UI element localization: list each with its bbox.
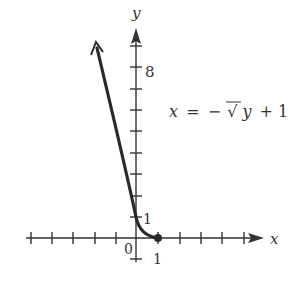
x-tick-label-1: 1	[153, 251, 162, 267]
x-axis-label: x	[270, 230, 279, 248]
y-axis-label: y	[131, 4, 141, 22]
y-tick-label-1: 1	[143, 211, 152, 227]
equation-label: x = − √ y + 1	[169, 102, 288, 121]
y-tick-label-8: 8	[145, 63, 155, 81]
endpoint-dot	[154, 234, 162, 242]
svg-text:x = − √: x = − √ y + 1	[169, 102, 288, 121]
graph: y x 8 1 0 1 x = − √ y + 1	[0, 0, 294, 294]
x-tick-label-0: 0	[124, 241, 133, 257]
